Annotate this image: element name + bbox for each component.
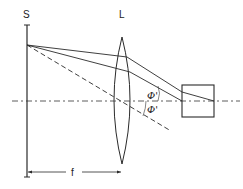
label-phi-upper: Φ' [147, 90, 158, 101]
ray-upper [27, 45, 214, 101]
ray-chief-dashed [27, 45, 171, 131]
arrow-head-right [117, 171, 121, 174]
angle-arc-lower [143, 101, 146, 116]
optics-diagram: S L Φ' Φ' f [0, 0, 243, 189]
label-s: S [23, 9, 30, 20]
ray-lower [27, 45, 182, 101]
arrow-head-left [28, 171, 32, 174]
label-phi-lower: Φ' [147, 104, 158, 115]
label-f: f [71, 167, 74, 178]
label-l: L [119, 9, 125, 20]
